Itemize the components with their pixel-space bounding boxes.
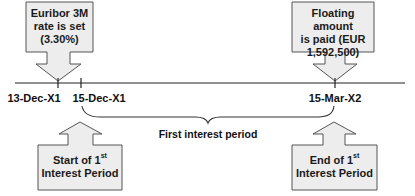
date-label-15-mar-x2: 15-Mar-X2: [305, 92, 365, 105]
callout-rate-set: Euribor 3M rate is set (3.30%): [26, 7, 93, 46]
date-label-15-dec-x1: 15-Dec-X1: [69, 92, 129, 105]
period-brace: [82, 106, 334, 123]
callout-line-prefix: Start of 1: [53, 154, 101, 166]
callout-line: Interest Period: [292, 167, 377, 180]
date-label-13-dec-x1: 13-Dec-X1: [4, 92, 64, 105]
callout-amount-paid: Floating amount is paid (EUR 1,592,500): [292, 7, 374, 59]
callout-line: rate is set: [26, 20, 93, 33]
callout-line: Euribor 3M: [26, 7, 93, 20]
callout-line: is paid (EUR: [292, 33, 374, 46]
ordinal-suffix: st: [353, 152, 359, 159]
ordinal-suffix: st: [101, 152, 107, 159]
callout-line: Interest Period: [38, 167, 122, 180]
callout-line: Floating amount: [292, 7, 374, 33]
period-label: First interest period: [148, 128, 268, 141]
callout-line: Start of 1st: [38, 154, 122, 167]
callout-line-prefix: End of 1: [310, 154, 353, 166]
callout-line: End of 1st: [292, 154, 377, 167]
callout-line: (3.30%): [26, 33, 93, 46]
callout-period-end: End of 1st Interest Period: [292, 154, 377, 180]
callout-line: 1,592,500): [292, 46, 374, 59]
callout-period-start: Start of 1st Interest Period: [38, 154, 122, 180]
